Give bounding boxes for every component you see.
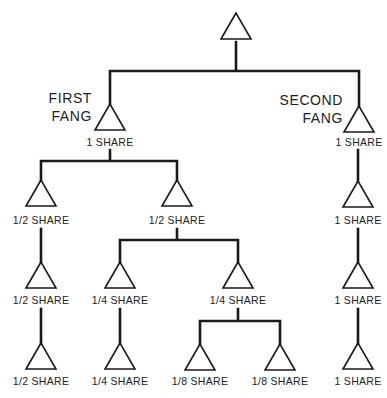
person-triangle-icon <box>26 262 56 288</box>
person-triangle-icon <box>26 343 56 369</box>
person-triangle-icon <box>105 343 135 369</box>
share-label: 1 SHARE <box>334 214 381 226</box>
edge-b2 <box>200 309 280 344</box>
share-label: 1/4 SHARE <box>92 375 148 387</box>
person-triangle-icon <box>221 13 251 39</box>
edge-f1 <box>41 150 177 180</box>
second-fang-label-line1: SECOND <box>280 92 344 108</box>
share-label: 1/2 SHARE <box>13 294 69 306</box>
share-label: 1 SHARE <box>86 136 133 148</box>
share-label: 1/2 SHARE <box>149 214 205 226</box>
person-triangle-icon <box>343 343 373 369</box>
labels-layer: FIRST FANG SECOND FANG 1 SHARE1 SHARE1/2… <box>13 90 383 387</box>
person-triangle-icon <box>223 262 253 288</box>
person-triangle-icon <box>105 262 135 288</box>
share-label: 1/8 SHARE <box>252 375 308 387</box>
share-label: 1 SHARE <box>335 136 382 148</box>
nodes-layer <box>26 13 374 370</box>
share-label: 1/8 SHARE <box>172 375 228 387</box>
person-triangle-icon <box>343 262 373 288</box>
share-label: 1/4 SHARE <box>92 294 148 306</box>
share-label: 1 SHARE <box>334 375 381 387</box>
edges-layer <box>41 42 359 344</box>
share-label: 1 SHARE <box>334 294 381 306</box>
share-label: 1/4 SHARE <box>210 294 266 306</box>
second-fang-label-line2: FANG <box>302 110 343 126</box>
share-label: 1/2 SHARE <box>13 375 69 387</box>
family-tree-diagram: FIRST FANG SECOND FANG 1 SHARE1 SHARE1/2… <box>0 0 387 398</box>
person-triangle-icon <box>344 106 374 132</box>
person-triangle-icon <box>343 181 373 207</box>
person-triangle-icon <box>185 344 215 370</box>
first-fang-label-line1: FIRST <box>49 90 92 106</box>
person-triangle-icon <box>95 104 125 130</box>
edge-b <box>120 229 238 262</box>
person-triangle-icon <box>26 180 56 206</box>
person-triangle-icon <box>162 180 192 206</box>
person-triangle-icon <box>265 344 295 370</box>
first-fang-label-line2: FANG <box>51 108 92 124</box>
share-label: 1/2 SHARE <box>13 214 69 226</box>
